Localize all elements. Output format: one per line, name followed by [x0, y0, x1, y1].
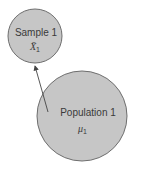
sampling-diagram: Population 1 μ1 Sample 1 X̄1	[0, 0, 142, 175]
sample-node: Sample 1 X̄1	[8, 9, 62, 63]
population-node: Population 1 μ1	[37, 71, 127, 161]
sample-label: Sample 1	[15, 27, 58, 38]
population-label: Population 1	[60, 107, 116, 118]
